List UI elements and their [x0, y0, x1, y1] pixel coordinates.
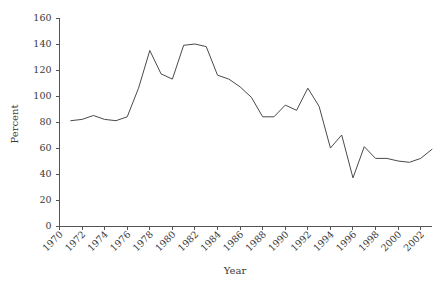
x-tick-label: 1972 [63, 229, 88, 254]
y-tick-label: 140 [33, 38, 51, 49]
y-tick-label: 100 [33, 90, 51, 101]
data-line-percent [71, 44, 432, 178]
x-tick-label: 1988 [243, 229, 268, 254]
x-tick-label: 1980 [153, 229, 178, 254]
x-tick-label: 1998 [356, 229, 381, 254]
y-tick-label: 120 [33, 64, 51, 75]
line-chart: 020406080100120140160 197019721974197619… [0, 0, 445, 286]
y-axis: 020406080100120140160 [33, 12, 59, 231]
x-tick-label: 1974 [85, 229, 110, 254]
chart-figure: 020406080100120140160 197019721974197619… [0, 0, 445, 286]
x-tick-label: 1992 [288, 229, 313, 254]
data-series-group [71, 44, 432, 178]
y-tick-label: 60 [39, 142, 51, 153]
x-tick-label: 1994 [311, 229, 336, 254]
x-axis-title: Year [223, 265, 247, 276]
y-tick-label: 40 [39, 168, 51, 179]
x-tick-label: 2000 [379, 229, 404, 254]
x-tick-label: 1986 [221, 229, 246, 254]
x-tick-label: 1970 [40, 229, 65, 254]
x-tick-label: 1982 [175, 229, 200, 254]
x-axis: 1970197219741976197819801982198419861988… [40, 226, 432, 254]
x-tick-label: 1978 [130, 229, 155, 254]
y-tick-label: 0 [45, 220, 51, 231]
x-tick-label: 1990 [266, 229, 291, 254]
y-tick-label: 20 [39, 194, 51, 205]
y-axis-title: Percent [9, 105, 20, 144]
x-tick-label: 2002 [401, 229, 426, 254]
x-tick-label: 1996 [334, 229, 359, 254]
y-tick-label: 80 [39, 116, 51, 127]
y-tick-label: 160 [33, 12, 51, 23]
x-tick-label: 1976 [108, 229, 133, 254]
x-tick-label: 1984 [198, 229, 223, 254]
